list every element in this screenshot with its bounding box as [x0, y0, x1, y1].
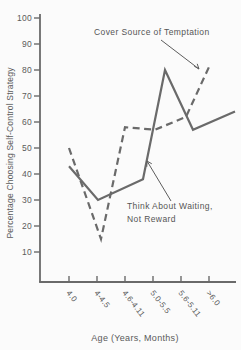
annotation-think-line2: Not Reward	[127, 213, 213, 226]
x-tick-label: 4-4.5	[92, 289, 111, 310]
y-tick-label: 90	[22, 39, 32, 49]
annotation-think-about-label: Think About Waiting, Not Reward	[127, 200, 213, 226]
plot-area: 102030405060708090100 4.04-4.54.6-4.115.…	[0, 0, 241, 350]
y-tick-label: 70	[22, 91, 32, 101]
chart-figure: 102030405060708090100 4.04-4.54.6-4.115.…	[0, 0, 241, 350]
x-tick-label: >6.0	[204, 289, 222, 308]
x-axis-title: Age (Years, Months)	[30, 333, 240, 343]
y-axis-title: Percentage Choosing Self-Control Strateg…	[5, 53, 17, 253]
y-tick-label: 60	[22, 117, 32, 127]
y-tick-label: 50	[22, 143, 32, 153]
x-tick-label: 4.0	[64, 289, 79, 304]
y-tick-label: 100	[17, 13, 32, 23]
y-tick-label: 20	[22, 221, 32, 231]
x-tick-label: 5.6-5.11	[176, 289, 202, 319]
annotation-arrow-think	[147, 161, 171, 201]
annotation-arrow-cover	[161, 40, 199, 69]
y-tick-label: 40	[22, 169, 32, 179]
x-tick-label: 5.0-5.5	[148, 289, 172, 316]
y-tick-label: 30	[22, 195, 32, 205]
x-tick-label: 4.6-4.11	[120, 289, 146, 319]
annotation-cover-source-label: Cover Source of Temptation	[94, 27, 210, 37]
y-axis-ticks: 102030405060708090100	[17, 13, 40, 257]
series-line-solid	[69, 70, 235, 200]
y-tick-label: 80	[22, 65, 32, 75]
annotation-think-line1: Think About Waiting,	[127, 200, 213, 213]
y-tick-label: 10	[22, 247, 32, 257]
